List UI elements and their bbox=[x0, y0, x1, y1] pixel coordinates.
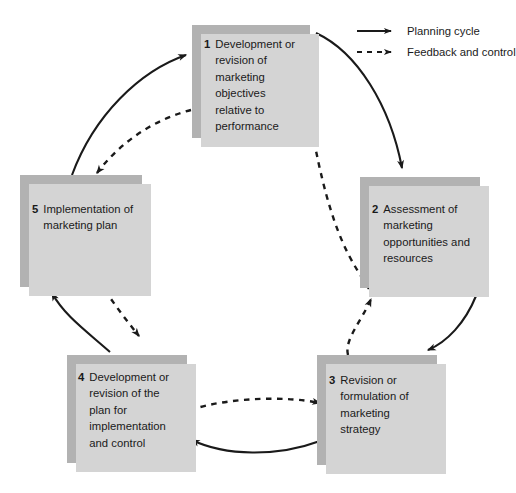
stage-box-3[interactable]: 3 Revision or formulation of marketing s… bbox=[317, 355, 437, 465]
arrow-5-to-1 bbox=[72, 55, 186, 175]
arrow-2-to-3 bbox=[428, 296, 476, 350]
legend-item-planning-cycle: Planning cycle bbox=[356, 20, 516, 41]
stage-4-content: 4 Development or revision of the plan fo… bbox=[78, 369, 183, 451]
legend-label-feedback-and-control: Feedback and control bbox=[407, 46, 516, 58]
stage-1-label: Development or revision of marketing obj… bbox=[215, 36, 302, 134]
stage-2-label: Assessment of marketing opportunities an… bbox=[383, 201, 474, 267]
stage-3-number: 3 bbox=[329, 372, 335, 388]
stage-4-label: Development or revision of the plan for … bbox=[89, 369, 183, 451]
arrow-4-to-5 bbox=[52, 293, 110, 352]
stage-5-number: 5 bbox=[32, 201, 38, 217]
stage-3-label: Revision or formulation of marketing str… bbox=[340, 372, 431, 438]
stage-3-content: 3 Revision or formulation of marketing s… bbox=[329, 372, 431, 438]
stage-1-number: 1 bbox=[204, 36, 210, 52]
arrow-4-to-3 bbox=[190, 399, 320, 410]
marketing-planning-cycle-diagram: 1 Development or revision of marketing o… bbox=[0, 0, 516, 493]
stage-4-number: 4 bbox=[78, 369, 84, 385]
stage-5-label: Implementation of marketing plan bbox=[43, 201, 136, 234]
stage-1-content: 1 Development or revision of marketing o… bbox=[204, 36, 302, 134]
stage-box-1[interactable]: 1 Development or revision of marketing o… bbox=[192, 25, 310, 138]
legend-item-feedback-and-control: Feedback and control bbox=[356, 41, 516, 62]
arrow-3-to-2 bbox=[347, 299, 371, 355]
arrow-1-to-5 bbox=[97, 110, 191, 173]
stage-2-number: 2 bbox=[372, 201, 378, 217]
arrow-5-to-4 bbox=[105, 290, 139, 336]
arrow-3-to-4 bbox=[192, 440, 320, 453]
stage-2-content: 2 Assessment of marketing opportunities … bbox=[372, 201, 474, 267]
stage-5-content: 5 Implementation of marketing plan bbox=[32, 201, 136, 234]
legend-label-planning-cycle: Planning cycle bbox=[407, 25, 480, 37]
legend: Planning cycle Feedback and control bbox=[356, 20, 516, 62]
solid-arrow-icon bbox=[356, 24, 398, 38]
dashed-arrow-icon bbox=[356, 45, 398, 59]
stage-box-4[interactable]: 4 Development or revision of the plan fo… bbox=[67, 355, 187, 463]
stage-box-2[interactable]: 2 Assessment of marketing opportunities … bbox=[360, 177, 480, 288]
stage-box-5[interactable]: 5 Implementation of marketing plan bbox=[20, 175, 142, 287]
